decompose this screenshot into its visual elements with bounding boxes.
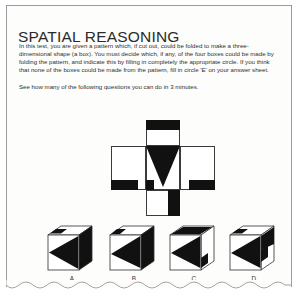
answer-option-b[interactable]: B	[103, 224, 165, 286]
cube-b-illustration	[103, 224, 165, 276]
instructions-paragraph-2: See how many of the following questions …	[19, 83, 281, 91]
instructions-block: In this test, you are given a pattern wh…	[19, 42, 281, 91]
answer-option-c[interactable]: C	[163, 224, 225, 286]
cube-d-illustration	[223, 224, 285, 276]
net-left-black-bar	[111, 180, 138, 190]
net-top-black-band	[146, 120, 180, 130]
torn-paper-edge	[6, 280, 292, 294]
answer-options-row: A B C	[7, 224, 292, 286]
net-right-black-bar	[189, 180, 215, 190]
cube-c-illustration	[163, 224, 225, 276]
cube-a-illustration	[41, 224, 103, 276]
torn-edge-graphic	[6, 280, 292, 294]
answer-option-a[interactable]: A	[41, 224, 103, 286]
test-page-sheet: SPATIAL REASONING In this test, you are …	[6, 5, 292, 287]
net-bottom-black-bar	[168, 190, 180, 216]
answer-option-d[interactable]: D	[223, 224, 285, 286]
net-centre-black-bar	[146, 180, 154, 190]
instructions-paragraph-1: In this test, you are given a pattern wh…	[19, 42, 281, 75]
cube-net-pattern	[111, 120, 215, 216]
